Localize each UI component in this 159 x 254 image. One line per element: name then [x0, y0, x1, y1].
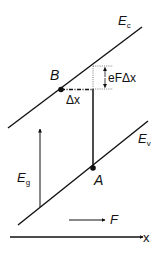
point-b-dot [58, 87, 64, 93]
band-gap-label: Eg [17, 170, 30, 187]
delta-x-label: Δx [66, 93, 80, 107]
point-a-label: A [93, 172, 103, 188]
energy-drop-label: eFΔx [108, 71, 136, 85]
field-label: F [110, 212, 119, 227]
x-axis-label: x [143, 230, 150, 245]
valence-band-label: Ev [138, 131, 151, 148]
valence-band-line [18, 121, 148, 225]
band-diagram: Ec Ev Eg B A Δx eFΔx F x [0, 0, 159, 254]
point-a-dot [90, 165, 96, 171]
conduction-band-label: Ec [118, 13, 131, 30]
point-b-label: B [50, 67, 59, 83]
